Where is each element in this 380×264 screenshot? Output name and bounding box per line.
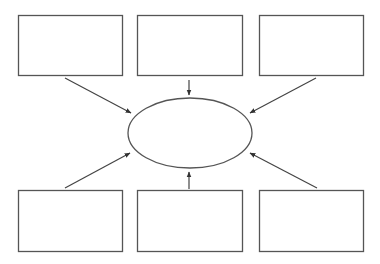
box-top-right [260,16,364,76]
box-bottom-middle [138,191,243,252]
box-bottom-right [260,191,364,252]
center-layer [128,98,252,168]
arrow-top-right-to-center [250,78,316,113]
arrow-bottom-right-to-center [250,153,317,188]
box-top-middle [138,16,243,76]
arrow-bottom-left-to-center [65,153,130,188]
box-top-left [19,16,123,76]
center-ellipse [128,98,252,168]
box-bottom-left [19,191,123,252]
diagram-canvas [0,0,380,264]
arrow-top-left-to-center [65,78,131,113]
hub-spoke-diagram [0,0,380,264]
